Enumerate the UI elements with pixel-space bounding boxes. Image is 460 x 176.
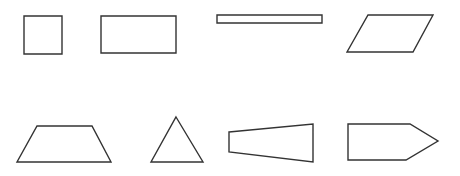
parallelogram-shape (347, 15, 433, 52)
pentagon-arrow-shape (348, 124, 438, 160)
tapered-quadrilateral-shape (229, 124, 313, 162)
shapes-diagram (0, 0, 460, 176)
square-shape (24, 16, 62, 54)
triangle-shape (151, 117, 203, 162)
thin-rectangle-shape (217, 15, 322, 23)
trapezoid-shape (17, 126, 111, 162)
rectangle-shape (101, 16, 176, 53)
